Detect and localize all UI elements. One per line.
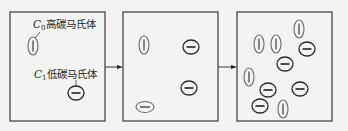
leader-line-c0 bbox=[35, 32, 40, 38]
label-c1-symbol: C bbox=[34, 68, 42, 80]
arrow-1-head bbox=[117, 65, 123, 69]
arrow-2-head bbox=[231, 65, 237, 69]
stage-3-box bbox=[237, 12, 332, 121]
label-c0-high-carbon-martensite: C0高碳马氏体 bbox=[33, 19, 96, 32]
label-c1-text: 低碳马氏体 bbox=[47, 68, 97, 80]
label-c0-symbol: C bbox=[33, 18, 41, 30]
label-c0-text: 高碳马氏体 bbox=[46, 18, 96, 30]
martensite-diagram: C0高碳马氏体 C1低碳马氏体 bbox=[0, 0, 348, 131]
label-c1-low-carbon-martensite: C1低碳马氏体 bbox=[34, 69, 97, 82]
